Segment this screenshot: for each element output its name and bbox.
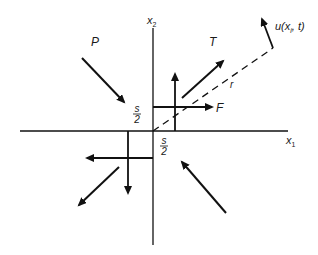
diagonal-up-left-arrow: [182, 162, 226, 213]
force-diagram: x2 x1 P T F r u(xi, t) s 2 s 2: [0, 0, 318, 255]
svg-text:2: 2: [133, 114, 140, 125]
x2-axis-label: x2: [146, 14, 157, 28]
p-arrow: [82, 58, 124, 102]
svg-text:s: s: [135, 103, 140, 114]
f-label: F: [216, 101, 224, 115]
u-label: u(xi, t): [275, 20, 305, 34]
r-label: r: [230, 79, 234, 90]
diagonal-down-left-arrow: [79, 167, 119, 205]
svg-text:s: s: [162, 135, 167, 146]
x1-axis-label: x1: [285, 134, 296, 148]
p-label: P: [91, 35, 99, 49]
svg-text:2: 2: [160, 146, 167, 157]
t-arrow: [182, 61, 223, 98]
half-s-upper-label: s 2: [133, 103, 141, 125]
u-arrow: [262, 19, 273, 48]
r-dashed-line: [153, 48, 273, 131]
t-label: T: [209, 35, 218, 49]
half-s-lower-label: s 2: [160, 135, 168, 157]
